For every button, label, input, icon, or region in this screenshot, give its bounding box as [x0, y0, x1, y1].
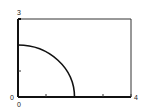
y-max-label: 3 — [17, 9, 21, 16]
y-zero-label: 0 — [10, 94, 14, 101]
plot-area — [0, 0, 145, 112]
x-max-label: 4 — [134, 94, 138, 101]
quarter-circle-curve — [18, 45, 75, 97]
x-zero-label: 0 — [17, 101, 21, 108]
